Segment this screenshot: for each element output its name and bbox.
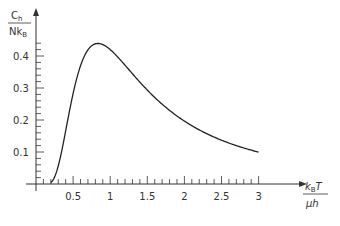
x-ticks: 0.511.522.53 [43,176,261,202]
x-tick-label: 3 [255,191,261,202]
y-tick-label: 0.4 [13,51,29,62]
svg-text:kBT: kBT [305,181,323,194]
svg-text:Ch: Ch [11,10,22,23]
y-tick-label: 0.2 [13,115,29,126]
x-tick-label: 1.5 [139,191,155,202]
y-ticks: 0.10.20.30.4 [13,43,44,177]
y-tick-label: 0.1 [13,147,29,158]
schottky-heat-capacity-chart: 0.10.20.30.4 0.511.522.53 Ch NkB kBT μh [0,0,340,226]
x-axis-label: kBT μh [303,181,328,209]
y-axis-label: Ch NkB [8,10,31,39]
x-tick-label: 0.5 [65,191,81,202]
axes [26,8,307,191]
svg-text:NkB: NkB [9,26,27,39]
x-tick-label: 1 [107,191,113,202]
y-tick-label: 0.3 [13,83,29,94]
x-tick-label: 2 [181,191,187,202]
data-curve [51,43,259,182]
x-tick-label: 2.5 [214,191,230,202]
svg-text:μh: μh [305,198,319,209]
y-axis-arrow [33,8,39,16]
